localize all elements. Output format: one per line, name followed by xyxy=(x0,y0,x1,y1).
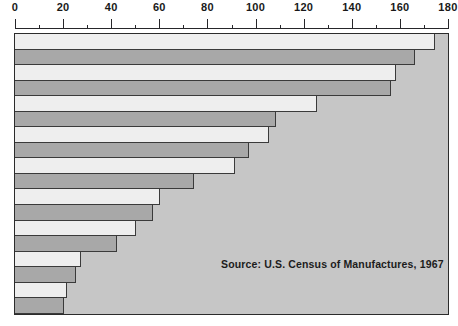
bar-row xyxy=(15,81,448,97)
bar xyxy=(15,252,81,268)
bar-row xyxy=(15,205,448,221)
x-axis-tick-label: 60 xyxy=(153,1,166,13)
bar xyxy=(15,50,415,66)
bar-row xyxy=(15,96,448,112)
x-axis-tick-major xyxy=(15,19,16,29)
bar-row xyxy=(15,298,448,314)
x-axis-tick-major xyxy=(159,19,160,29)
bar-row xyxy=(15,127,448,143)
bar xyxy=(15,298,64,314)
bar xyxy=(15,283,67,299)
bar xyxy=(15,174,194,190)
x-axis-tick-major xyxy=(352,19,353,29)
x-axis-tick-major xyxy=(207,19,208,29)
source-note: Source: U.S. Census of Manufactures, 196… xyxy=(221,258,444,270)
bar-row xyxy=(15,283,448,299)
bar xyxy=(15,267,76,283)
x-axis-tick-major xyxy=(256,19,257,29)
x-axis-tick-minor xyxy=(328,25,329,29)
x-axis-tick-major xyxy=(111,19,112,29)
x-axis: 020406080100120140160180 xyxy=(0,0,458,33)
bar-row xyxy=(15,34,448,50)
x-axis-tick-minor xyxy=(87,25,88,29)
bar xyxy=(15,65,396,81)
x-axis-tick-major xyxy=(304,19,305,29)
x-axis-tick-major xyxy=(63,19,64,29)
x-axis-tick-label: 40 xyxy=(105,1,118,13)
bar-row xyxy=(15,112,448,128)
x-axis-tick-label: 120 xyxy=(294,1,313,13)
bar xyxy=(15,158,235,174)
x-axis-tick-major xyxy=(400,19,401,29)
x-axis-tick-label: 20 xyxy=(57,1,70,13)
x-axis-tick-label: 0 xyxy=(12,1,18,13)
bar-row xyxy=(15,158,448,174)
x-axis-tick-label: 140 xyxy=(342,1,361,13)
bar xyxy=(15,34,435,50)
plot-area xyxy=(14,33,449,315)
bar xyxy=(15,127,269,143)
x-axis-tick-label: 80 xyxy=(201,1,214,13)
x-axis-tick-label: 160 xyxy=(390,1,409,13)
bar xyxy=(15,96,317,112)
x-axis-tick-minor xyxy=(135,25,136,29)
x-axis-tick-minor xyxy=(376,25,377,29)
bar-row xyxy=(15,236,448,252)
x-axis-tick-minor xyxy=(424,25,425,29)
bar-row xyxy=(15,143,448,159)
bar-row xyxy=(15,221,448,237)
x-axis-tick-minor xyxy=(183,25,184,29)
x-axis-tick-minor xyxy=(280,25,281,29)
bar xyxy=(15,236,117,252)
bar-row xyxy=(15,50,448,66)
bar xyxy=(15,205,153,221)
x-axis-tick-minor xyxy=(232,25,233,29)
bar-chart: 020406080100120140160180 Source: U.S. Ce… xyxy=(0,0,458,326)
bar-row xyxy=(15,189,448,205)
bar xyxy=(15,143,249,159)
x-axis-tick-label: 100 xyxy=(246,1,265,13)
bar-row xyxy=(15,65,448,81)
bar xyxy=(15,112,276,128)
x-axis-tick-major xyxy=(448,19,449,29)
bar xyxy=(15,81,391,97)
bar xyxy=(15,221,136,237)
bar-row xyxy=(15,174,448,190)
x-axis-tick-minor xyxy=(39,25,40,29)
x-axis-tick-label: 180 xyxy=(438,1,457,13)
bar xyxy=(15,189,160,205)
